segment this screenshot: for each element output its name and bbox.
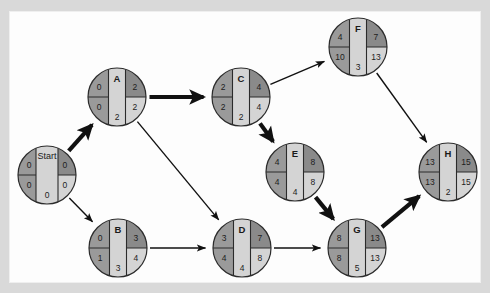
node-start-latest-finish: 0	[63, 180, 68, 190]
node-E[interactable]: E48484	[266, 143, 324, 201]
node-F-earliest-start: 4	[338, 32, 343, 42]
node-H-duration: 2	[446, 187, 451, 197]
node-B-earliest-finish: 3	[134, 233, 139, 243]
node-H-earliest-finish: 15	[461, 157, 471, 167]
node-B-earliest-start: 0	[98, 233, 103, 243]
node-C-latest-finish: 4	[257, 102, 262, 112]
node-G-earliest-start: 8	[337, 233, 342, 243]
node-F-latest-start: 10	[335, 52, 345, 62]
node-A-duration: 2	[115, 112, 120, 122]
node-C-earliest-finish: 4	[257, 82, 262, 92]
nodes-layer: Start00000A02022B03143C24242D37484E48484…	[18, 18, 477, 277]
node-F-duration: 3	[356, 62, 361, 72]
edge-e-g	[316, 197, 334, 219]
node-H-latest-start: 13	[425, 177, 435, 187]
node-A-latest-start: 0	[97, 102, 102, 112]
node-E-latest-finish: 8	[311, 177, 316, 187]
node-F-latest-finish: 13	[371, 52, 381, 62]
edge-start-b	[69, 198, 92, 222]
node-H[interactable]: H131513152	[419, 143, 477, 201]
node-H-label: H	[445, 148, 452, 159]
node-A[interactable]: A02022	[88, 68, 146, 126]
node-C-earliest-start: 2	[221, 82, 226, 92]
node-B-latest-start: 1	[98, 253, 103, 263]
edge-start-a	[69, 125, 92, 151]
node-D-earliest-start: 3	[222, 233, 227, 243]
node-B[interactable]: B03143	[89, 219, 147, 277]
node-F-earliest-finish: 7	[374, 32, 379, 42]
node-D-duration: 4	[240, 263, 245, 273]
node-start-duration: 0	[45, 190, 50, 200]
edge-c-e	[260, 123, 273, 141]
node-E-latest-start: 4	[275, 177, 280, 187]
node-D-label: D	[239, 224, 246, 235]
node-F-label: F	[355, 23, 361, 34]
node-C-label: C	[238, 73, 245, 84]
diagram-stage: Start00000A02022B03143C24242D37484E48484…	[0, 0, 490, 293]
node-D-latest-start: 4	[222, 253, 227, 263]
node-B-latest-finish: 4	[134, 253, 139, 263]
node-start-label: Start	[37, 151, 57, 161]
node-G-earliest-finish: 13	[370, 233, 380, 243]
node-D-earliest-finish: 7	[258, 233, 263, 243]
node-H-latest-finish: 15	[461, 177, 471, 187]
edge-g-h	[382, 196, 419, 227]
node-E-duration: 4	[293, 187, 298, 197]
node-start[interactable]: Start00000	[18, 146, 76, 204]
edge-f-h	[377, 73, 427, 142]
node-A-latest-finish: 2	[133, 102, 138, 112]
node-F[interactable]: F4710133	[329, 18, 387, 76]
node-D-latest-finish: 8	[258, 253, 263, 263]
node-start-earliest-start: 0	[27, 160, 32, 170]
node-G-label: G	[353, 224, 360, 235]
node-C[interactable]: C24242	[212, 68, 270, 126]
node-C-latest-start: 2	[221, 102, 226, 112]
node-start-earliest-finish: 0	[63, 160, 68, 170]
node-G-latest-finish: 13	[370, 253, 380, 263]
node-B-label: B	[115, 224, 122, 235]
node-G-latest-start: 8	[337, 253, 342, 263]
edge-c-f	[270, 61, 324, 84]
node-H-earliest-start: 13	[425, 157, 435, 167]
node-G-duration: 5	[355, 263, 360, 273]
edge-a-d	[137, 122, 218, 220]
node-start-latest-start: 0	[27, 180, 32, 190]
node-A-earliest-start: 0	[97, 82, 102, 92]
node-E-earliest-finish: 8	[311, 157, 316, 167]
node-B-duration: 3	[116, 263, 121, 273]
node-E-earliest-start: 4	[275, 157, 280, 167]
node-E-label: E	[292, 148, 298, 159]
node-G[interactable]: G8138135	[328, 219, 386, 277]
node-A-earliest-finish: 2	[133, 82, 138, 92]
node-A-label: A	[114, 73, 121, 84]
node-C-duration: 2	[239, 112, 244, 122]
network-diagram-svg: Start00000A02022B03143C24242D37484E48484…	[0, 0, 490, 293]
node-D[interactable]: D37484	[213, 219, 271, 277]
